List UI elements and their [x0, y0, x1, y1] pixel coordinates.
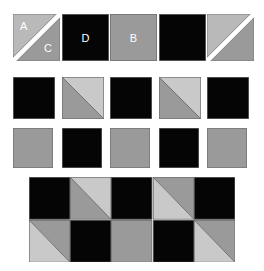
cell-r1c1[interactable]	[29, 177, 70, 220]
patch-dark-5[interactable]	[62, 128, 102, 168]
quilt-diagram-canvas: ACDB	[0, 0, 264, 271]
patch-label-d: D	[82, 32, 90, 43]
cell-r1c5[interactable]	[194, 177, 235, 220]
patch-d[interactable]: D	[62, 14, 109, 61]
assembled-block	[29, 177, 235, 262]
patch-hst-1[interactable]	[62, 77, 104, 119]
cell-r1c4[interactable]	[153, 177, 194, 220]
cell-r2c1[interactable]	[29, 220, 70, 263]
patch-dark-2[interactable]	[13, 77, 55, 119]
patch-gray-2[interactable]	[110, 128, 150, 168]
cell-r1c3[interactable]	[111, 177, 152, 220]
patch-dark-4[interactable]	[207, 77, 249, 119]
patch-label-c: C	[44, 43, 52, 54]
cell-r1c2[interactable]	[70, 177, 111, 220]
patch-dark-1[interactable]	[159, 14, 206, 61]
patch-gray-3[interactable]	[207, 128, 247, 168]
cell-r2c4[interactable]	[153, 220, 194, 263]
patch-a-c[interactable]: AC	[13, 14, 60, 61]
patch-gray-1[interactable]	[13, 128, 53, 168]
cell-r2c5[interactable]	[194, 220, 235, 263]
patch-split-gap-2[interactable]	[207, 14, 254, 61]
cell-r2c3[interactable]	[111, 220, 152, 263]
patch-dark-6[interactable]	[159, 128, 199, 168]
patch-hst-2[interactable]	[159, 77, 201, 119]
patch-label-a: A	[20, 21, 27, 32]
cell-r2c2[interactable]	[70, 220, 111, 263]
patch-label-b: B	[130, 32, 137, 43]
patch-b[interactable]: B	[110, 14, 157, 61]
patch-dark-3[interactable]	[110, 77, 152, 119]
